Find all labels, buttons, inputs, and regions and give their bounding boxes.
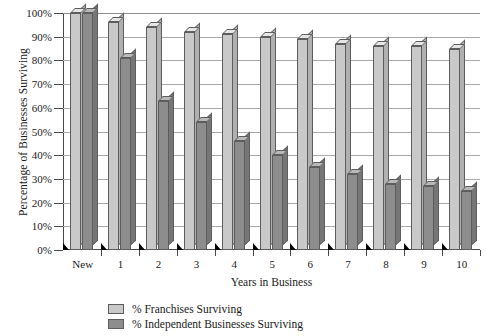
base-wedge-icon [290,243,296,250]
legend-item-independent: % Independent Businesses Surviving [108,316,303,331]
y-axis-tick [54,155,63,156]
x-axis-tick [139,250,140,256]
y-axis-tick-label: 0% [37,244,52,256]
bar-light [449,49,460,250]
bar-dark [196,122,207,250]
bar-side-face [93,3,98,245]
bar-front-face [272,155,283,250]
plot-area: 0%10%20%30%40%50%60%70%80%90%100%New1234… [63,13,480,250]
y-axis-tick [54,226,63,227]
bar-side-face [320,158,325,245]
x-axis-tick [290,250,291,256]
bar-dark [423,186,434,250]
x-axis-tick-label: 1 [118,258,124,270]
y-axis-tick [54,108,63,109]
bar-dark [461,191,472,250]
x-axis-tick [328,250,329,256]
bar-light [297,39,308,250]
chart-legend: % Franchises Surviving % Independent Bus… [108,301,303,331]
bar-front-face [234,141,245,250]
bar-front-face [449,49,460,250]
y-axis-tick-label: 30% [32,173,52,185]
y-axis-tick [54,60,63,61]
y-axis-tick [54,84,63,85]
bar-side-face [283,146,288,245]
y-axis-tick-label: 50% [32,126,52,138]
x-axis-title: Years in Business [63,276,480,288]
x-axis-tick [442,250,443,256]
x-axis-tick-label: 5 [270,258,276,270]
bar-front-face [347,174,358,250]
base-wedge-icon [366,243,372,250]
x-axis-tick-label: 4 [232,258,238,270]
bar-front-face [385,184,396,250]
bar-dark [234,141,245,250]
x-axis-tick-label: 7 [345,258,351,270]
bar-light [222,34,233,250]
y-axis-tick [54,179,63,180]
bar-front-face [146,27,157,250]
y-axis-tick-label: 100% [26,7,52,19]
x-axis-tick [177,250,178,256]
base-wedge-icon [139,243,145,250]
base-wedge-icon [442,243,448,250]
base-wedge-icon [253,243,259,250]
y-axis-tick-label: 40% [32,149,52,161]
base-wedge-icon [101,243,107,250]
bar-light [184,32,195,250]
bar-light [108,22,119,250]
y-axis-title: Percentage of Businesses Surviving [17,17,29,247]
bar-light [373,46,384,250]
y-axis-tick-label: 70% [32,78,52,90]
bar-front-face [309,167,320,250]
x-axis-tick-label: 10 [456,258,467,270]
x-axis-tick-label: 8 [383,258,389,270]
bar-side-face [131,49,136,245]
base-wedge-icon [328,243,334,250]
base-wedge-icon [215,243,221,250]
bar-front-face [335,44,346,250]
bar-front-face [82,13,93,250]
legend-swatch-franchises-icon [108,304,124,314]
y-axis-tick-label: 20% [32,197,52,209]
bar-front-face [70,13,81,250]
bar-front-face [196,122,207,250]
y-axis-tick [54,250,63,251]
bar-side-face [358,165,363,245]
bar-dark [347,174,358,250]
bar-front-face [373,46,384,250]
x-axis-tick-label: 9 [421,258,427,270]
bar-dark [309,167,320,250]
x-axis-tick-label: 3 [194,258,200,270]
y-axis-tick [54,203,63,204]
y-axis-tick-label: 60% [32,102,52,114]
bar-side-face [434,177,439,245]
y-axis-tick [54,132,63,133]
bar-side-face [245,131,250,245]
bar-dark [272,155,283,250]
bar-dark [158,101,169,250]
bar-front-face [108,22,119,250]
bar-light [260,37,271,250]
gridline [63,13,480,14]
x-axis-tick [480,250,481,256]
y-axis-tick-label: 10% [32,220,52,232]
bar-side-face [207,113,212,245]
bar-side-face [396,174,401,245]
x-axis-tick-label: 6 [307,258,313,270]
x-axis-tick [101,250,102,256]
bar-light [335,44,346,250]
legend-item-franchises: % Franchises Surviving [108,301,303,316]
x-axis-tick [253,250,254,256]
bar-dark [385,184,396,250]
y-axis-tick [54,13,63,14]
bar-light [70,13,81,250]
bar-side-face [472,181,477,245]
bar-front-face [222,34,233,250]
bar-chart: Percentage of Businesses Surviving 0%10%… [0,0,486,336]
x-axis-tick [404,250,405,256]
x-axis-tick [215,250,216,256]
legend-label-franchises: % Franchises Surviving [132,303,242,315]
y-axis-tick-label: 90% [32,31,52,43]
x-axis-tick [366,250,367,256]
